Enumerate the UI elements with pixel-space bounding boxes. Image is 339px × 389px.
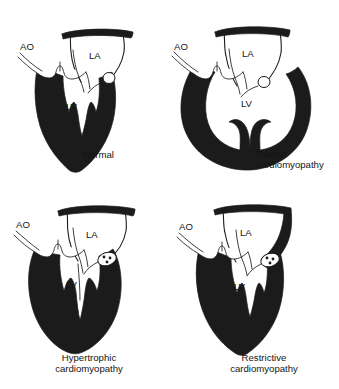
label-ao-dilated: AO [174, 41, 188, 52]
caption-dilated: Dilated cardiomyopathy [256, 148, 339, 170]
caption-normal: Normal [83, 149, 163, 160]
caption-restrictive: Restrictive cardiomyopathy [204, 352, 324, 374]
caption-restrictive-line1: Restrictive [204, 352, 324, 363]
label-lv-restrictive: LV [234, 281, 246, 292]
label-ao-restrictive: AO [179, 221, 193, 232]
label-la-normal: LA [89, 50, 101, 61]
caption-restrictive-line2: cardiomyopathy [204, 363, 324, 374]
label-la-restrictive: LA [240, 227, 252, 238]
label-lv-normal: LV [66, 101, 78, 112]
label-lv-dilated: LV [241, 98, 253, 109]
label-ao-hyper: AO [16, 219, 30, 230]
caption-hypertrophic: Hypertrophic cardiomyopathy [29, 352, 149, 374]
label-la-dilated: LA [242, 48, 254, 59]
cardiomyopathy-figure: LA AO LV Normal LA [0, 0, 339, 389]
label-ao-normal: AO [20, 41, 34, 52]
mitral-annulus-normal [103, 73, 115, 84]
caption-dilated-line2: cardiomyopathy [256, 159, 339, 170]
label-lv-hyper: LV [66, 279, 78, 290]
caption-hypertrophic-line2: cardiomyopathy [29, 363, 149, 374]
panel-restrictive: LA AO LV [170, 192, 339, 357]
panel-hypertrophic: LA AO LV [0, 192, 170, 357]
mitral-annulus-dilated [258, 77, 270, 88]
label-la-hyper: LA [86, 229, 98, 240]
caption-dilated-line1: Dilated [256, 148, 339, 159]
caption-hypertrophic-line1: Hypertrophic [29, 352, 149, 363]
